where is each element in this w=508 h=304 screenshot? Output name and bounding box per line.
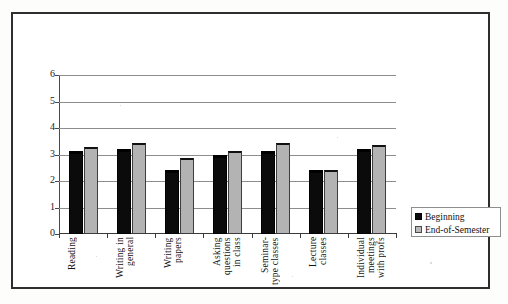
scan-speckle bbox=[430, 262, 432, 264]
scan-speckle bbox=[120, 105, 121, 106]
y-axis-tick-mark bbox=[55, 75, 59, 76]
bar-group bbox=[59, 75, 107, 234]
x-axis-tick-mark bbox=[252, 233, 253, 238]
y-axis-tick-labels: 0123456 bbox=[33, 75, 55, 234]
scan-speckle bbox=[96, 256, 97, 257]
x-axis-tick-mark bbox=[59, 233, 60, 238]
y-axis-tick-label: 2 bbox=[35, 174, 55, 185]
x-axis-category-label: Individual meetings with profs bbox=[356, 237, 390, 299]
bar-end-of-semester bbox=[84, 147, 98, 234]
y-axis-tick-label: 6 bbox=[35, 68, 55, 79]
bar-end-of-semester bbox=[180, 158, 194, 234]
black-square-icon bbox=[415, 213, 422, 220]
bar-group bbox=[107, 75, 155, 234]
bar-beginning bbox=[261, 151, 275, 234]
x-axis-category-label: Writing in general bbox=[115, 237, 149, 299]
bar-beginning bbox=[165, 170, 179, 234]
x-axis-category-label: Writing papers bbox=[163, 237, 197, 299]
bar-group bbox=[252, 75, 300, 234]
x-axis-tick-mark bbox=[348, 233, 349, 238]
legend-label: End-of-Semester bbox=[425, 225, 489, 235]
y-axis-tick-label: 1 bbox=[35, 201, 55, 212]
bar-end-of-semester bbox=[276, 143, 290, 234]
scan-speckle bbox=[292, 276, 293, 277]
x-axis-tick-mark bbox=[396, 233, 397, 238]
y-axis-tick-mark bbox=[55, 155, 59, 156]
legend-label: Beginning bbox=[425, 212, 465, 222]
bar-group bbox=[348, 75, 396, 234]
legend-item-end-of-semester: End-of-Semester bbox=[415, 223, 497, 236]
bar-group bbox=[300, 75, 348, 234]
x-axis-tick-mark bbox=[155, 233, 156, 238]
chart-legend: Beginning End-of-Semester bbox=[411, 207, 501, 237]
y-axis-tick-mark bbox=[55, 102, 59, 103]
y-axis-tick-label: 0 bbox=[35, 227, 55, 238]
x-axis-tick-mark bbox=[300, 233, 301, 238]
bar-end-of-semester bbox=[228, 151, 242, 234]
bar-beginning bbox=[117, 149, 131, 234]
plot-area bbox=[59, 75, 396, 234]
x-axis-category-label: Lecture classes bbox=[308, 237, 342, 299]
y-axis-tick-mark bbox=[55, 128, 59, 129]
chart-figure: 0123456 Beginning End-of-Semester Readin… bbox=[0, 0, 508, 304]
bar-end-of-semester bbox=[324, 170, 338, 234]
y-axis-tick-label: 5 bbox=[35, 95, 55, 106]
bar-group bbox=[155, 75, 203, 234]
x-axis-tick-mark bbox=[203, 233, 204, 238]
scan-speckle bbox=[337, 137, 338, 138]
y-axis-tick-mark bbox=[55, 181, 59, 182]
y-axis-tick-label: 4 bbox=[35, 121, 55, 132]
x-axis-category-label: Reading bbox=[67, 237, 101, 299]
gray-square-icon bbox=[415, 226, 422, 233]
bar-beginning bbox=[69, 151, 83, 234]
bar-beginning bbox=[213, 155, 227, 235]
bar-group bbox=[203, 75, 251, 234]
x-axis-tick-mark bbox=[107, 233, 108, 238]
x-axis-category-label: Seminar- type classes bbox=[260, 237, 294, 299]
y-axis-tick-mark bbox=[55, 208, 59, 209]
figure-border: 0123456 Beginning End-of-Semester Readin… bbox=[11, 12, 490, 289]
y-axis-tick-label: 3 bbox=[35, 148, 55, 159]
bar-beginning bbox=[357, 149, 371, 234]
legend-item-beginning: Beginning bbox=[415, 210, 497, 223]
bar-end-of-semester bbox=[132, 143, 146, 234]
x-axis-category-label: Asking questions in class bbox=[212, 237, 246, 299]
bar-end-of-semester bbox=[372, 145, 386, 234]
bar-beginning bbox=[309, 170, 323, 234]
